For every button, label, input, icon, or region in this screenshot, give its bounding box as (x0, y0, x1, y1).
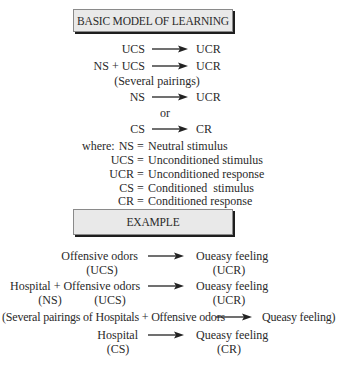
definition-term: CR (100, 194, 134, 208)
example-row-3-left: (Several pairings of Hospitals + Offensi… (2, 310, 225, 324)
model-row-1-right: UCR (196, 42, 221, 56)
model-row-2-right: UCR (196, 59, 221, 73)
model-row-4-right: CR (196, 122, 212, 136)
basic-model-title: BASIC MODEL OF LEARNING (77, 15, 229, 27)
definition-term: UCR (100, 167, 134, 181)
example-row-4-left-tag: (CS) (100, 342, 136, 356)
example-row-3-right: Queasy feeling) (262, 310, 335, 324)
definition-term: CS (100, 181, 134, 195)
definition-text: Unconditioned stimulus (148, 153, 263, 167)
definition-text: Unconditioned response (148, 167, 264, 181)
example-title-box: EXAMPLE (73, 209, 233, 235)
arrow-icon (148, 282, 184, 290)
arrow-icon (152, 45, 188, 53)
example-row-2-left-tag-ns: (NS) (30, 293, 70, 307)
model-row-2-left: NS + UCS (75, 59, 145, 73)
example-row-4-right-tag: (CR) (206, 342, 252, 356)
definition-term: NS (100, 139, 134, 153)
example-row-2-left: Hospital + Offensive odors (10, 279, 140, 293)
definition-equals: = (137, 181, 144, 195)
example-row-2-right-tag: (UCR) (206, 293, 252, 307)
example-row-1-left: Offensive odors (20, 249, 138, 263)
several-pairings-note: (Several pairings) (112, 74, 202, 88)
definition-equals: = (137, 194, 144, 208)
model-row-3-left: NS (95, 90, 145, 104)
arrow-icon (216, 313, 252, 321)
arrow-icon (152, 62, 188, 70)
example-row-1-left-tag: (UCS) (80, 263, 124, 277)
example-title: EXAMPLE (127, 216, 180, 228)
example-row-1-right: Oueasy feeling (196, 249, 268, 263)
example-row-4-right: Queasy feeling (196, 328, 268, 342)
definition-text: Conditioned response (148, 194, 252, 208)
arrow-icon (148, 252, 184, 260)
model-row-3-right: UCR (196, 90, 221, 104)
example-row-2-right: Oueasy feeling (196, 279, 268, 293)
example-row-1-right-tag: (UCR) (206, 263, 252, 277)
example-row-4-left: Hospital (60, 328, 138, 342)
example-row-2-left-tag-ucs: (UCS) (88, 293, 132, 307)
model-row-1-left: UCS (95, 42, 145, 56)
definition-equals: = (137, 167, 144, 181)
definition-text: Conditioned stimulus (148, 181, 254, 195)
arrow-icon (148, 331, 184, 339)
model-row-4-left: CS (95, 122, 145, 136)
basic-model-title-box: BASIC MODEL OF LEARNING (73, 9, 233, 32)
arrow-icon (152, 125, 188, 133)
definition-text: Neutral stimulus (148, 139, 228, 153)
or-label: or (150, 106, 180, 120)
definition-term: UCS (100, 153, 134, 167)
arrow-icon (152, 93, 188, 101)
definition-equals: = (137, 139, 144, 153)
definition-equals: = (137, 153, 144, 167)
